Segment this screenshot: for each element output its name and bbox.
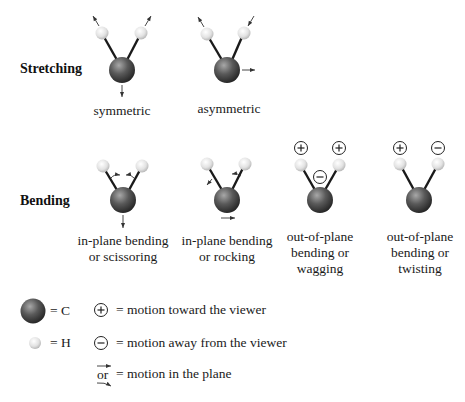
carbon-atom-icon: [214, 57, 240, 83]
label-wagging-line-1: out-of-plane: [287, 229, 354, 244]
hydrogen-atom-icon: [432, 158, 445, 171]
legend: = C = H = motion toward the viewer = mot…: [21, 299, 288, 387]
row-title-bending: Bending: [20, 193, 70, 208]
hydrogen-atom-icon: [29, 337, 41, 349]
hydrogen-atom-icon: [333, 159, 346, 172]
label-rocking-line-1: in-plane bending: [181, 233, 272, 248]
plus-sign-icon: [295, 142, 308, 155]
row-title-stretching: Stretching: [20, 61, 82, 76]
hydrogen-atom-icon: [136, 160, 149, 173]
label-twisting-line-2: bending or: [391, 245, 450, 260]
carbon-atom-icon: [109, 57, 135, 83]
carbon-atom-icon: [110, 187, 136, 213]
arrow-icon: [248, 16, 254, 26]
arrow-icon: [198, 17, 204, 27]
legend-toward-text: = motion toward the viewer: [116, 302, 267, 317]
arrow-icon: [126, 175, 134, 178]
hydrogen-atom-icon: [135, 27, 148, 40]
arrow-icon: [207, 179, 212, 185]
minus-sign-icon: [95, 337, 108, 350]
label-twisting-line-3: twisting: [398, 261, 442, 276]
molecule-symmetric-stretch: [93, 16, 151, 97]
molecule-asymmetric-stretch: [198, 16, 255, 83]
hydrogen-atom-icon: [394, 158, 407, 171]
minus-sign-icon: [314, 171, 327, 184]
vibrational-modes-diagram: Stretching Bending symmetric asymmetric …: [0, 0, 465, 402]
label-scissoring-line-1: in-plane bending: [77, 233, 168, 248]
label-twisting-line-1: out-of-plane: [387, 229, 454, 244]
diagram-canvas: Stretching Bending symmetric asymmetric …: [0, 0, 465, 402]
label-asymmetric: asymmetric: [198, 101, 261, 116]
legend-or-text: or: [97, 367, 109, 382]
legend-carbon-text: = C: [50, 303, 70, 318]
carbon-atom-icon: [214, 187, 240, 213]
molecule-scissoring: [97, 160, 149, 229]
label-rocking-line-2: or rocking: [199, 249, 255, 264]
label-scissoring-line-2: or scissoring: [89, 249, 158, 264]
molecule-wagging: [295, 142, 346, 214]
hydrogen-atom-icon: [238, 27, 251, 40]
carbon-atom-icon: [21, 299, 46, 324]
carbon-atom-icon: [406, 187, 432, 213]
hydrogen-atom-icon: [201, 28, 214, 41]
label-wagging-line-2: bending or: [291, 245, 350, 260]
label-wagging-line-3: wagging: [297, 261, 344, 276]
minus-sign-icon: [432, 142, 445, 155]
arrow-icon: [111, 175, 120, 178]
arrow-icon: [97, 383, 111, 386]
plus-sign-icon: [95, 304, 108, 317]
arrow-icon: [93, 16, 99, 26]
arrow-icon: [145, 16, 151, 26]
legend-plane-text: = motion in the plane: [116, 366, 232, 381]
hydrogen-atom-icon: [201, 158, 214, 171]
hydrogen-atom-icon: [295, 159, 308, 172]
molecule-rocking: [201, 158, 252, 219]
legend-away-text: = motion away from the viewer: [116, 335, 287, 350]
hydrogen-atom-icon: [239, 158, 252, 171]
plus-sign-icon: [394, 142, 407, 155]
carbon-atom-icon: [307, 187, 333, 213]
molecule-twisting: [394, 142, 445, 214]
label-symmetric: symmetric: [94, 103, 151, 118]
hydrogen-atom-icon: [96, 27, 109, 40]
plus-sign-icon: [333, 142, 346, 155]
hydrogen-atom-icon: [97, 160, 110, 173]
legend-hydrogen-text: = H: [50, 335, 71, 350]
